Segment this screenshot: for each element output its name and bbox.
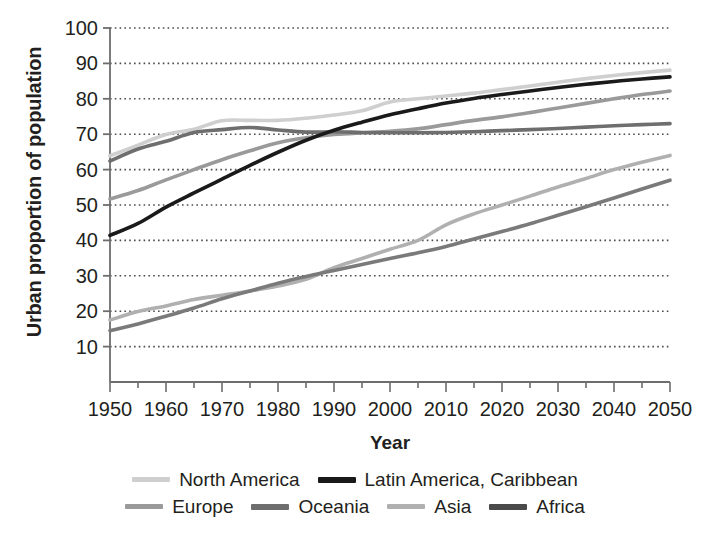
x-tick-label: 1980: [256, 398, 301, 420]
legend-label: North America: [179, 469, 299, 491]
legend-row: EuropeOceaniaAsiaAfrica: [0, 493, 710, 520]
legend-swatch: [132, 477, 170, 482]
x-axis-label: Year: [110, 432, 670, 454]
legend-item[interactable]: Oceania: [251, 496, 369, 518]
y-tick-label: 30: [76, 265, 98, 287]
x-tick-label: 1960: [144, 398, 189, 420]
y-axis-label: Urban proportion of population: [14, 0, 54, 392]
x-tick-label: 1970: [200, 398, 245, 420]
y-tick-label: 60: [76, 159, 98, 181]
x-tick-label: 2040: [592, 398, 637, 420]
legend-swatch: [318, 477, 356, 483]
x-tick-label: 1990: [312, 398, 357, 420]
legend-label: Asia: [434, 496, 471, 518]
legend-row: North AmericaLatin America, Caribbean: [0, 466, 710, 493]
x-tick-label: 2050: [648, 398, 693, 420]
legend-item[interactable]: North America: [132, 469, 299, 491]
chart-legend: North AmericaLatin America, CaribbeanEur…: [0, 466, 710, 520]
legend-item[interactable]: Latin America, Caribbean: [318, 469, 578, 491]
y-tick-label: 90: [76, 52, 98, 74]
line-chart-svg: 1020304050607080901001950196019701980199…: [0, 0, 710, 460]
legend-swatch: [387, 504, 425, 509]
legend-label: Latin America, Caribbean: [365, 469, 578, 491]
x-tick-label: 2010: [424, 398, 469, 420]
series-line: [110, 180, 670, 330]
x-tick-label: 2000: [368, 398, 413, 420]
legend-swatch: [251, 504, 289, 510]
y-tick-label: 80: [76, 88, 98, 110]
x-tick-label: 2030: [536, 398, 581, 420]
x-tick-label: 1950: [88, 398, 133, 420]
legend-label: Africa: [536, 496, 585, 518]
x-tick-label: 2020: [480, 398, 525, 420]
legend-swatch: [489, 504, 527, 510]
chart-figure: 1020304050607080901001950196019701980199…: [0, 0, 710, 547]
series-line: [110, 155, 670, 320]
y-tick-label: 50: [76, 194, 98, 216]
plot-area: 1020304050607080901001950196019701980199…: [0, 0, 710, 460]
legend-swatch: [125, 504, 163, 509]
y-tick-label: 40: [76, 229, 98, 251]
series-line: [110, 91, 670, 199]
legend-label: Oceania: [298, 496, 369, 518]
y-tick-label: 20: [76, 300, 98, 322]
y-tick-label: 70: [76, 123, 98, 145]
legend-item[interactable]: Asia: [387, 496, 471, 518]
legend-label: Europe: [172, 496, 233, 518]
legend-item[interactable]: Africa: [489, 496, 585, 518]
legend-item[interactable]: Europe: [125, 496, 233, 518]
y-tick-label: 100: [65, 17, 98, 39]
y-tick-label: 10: [76, 336, 98, 358]
